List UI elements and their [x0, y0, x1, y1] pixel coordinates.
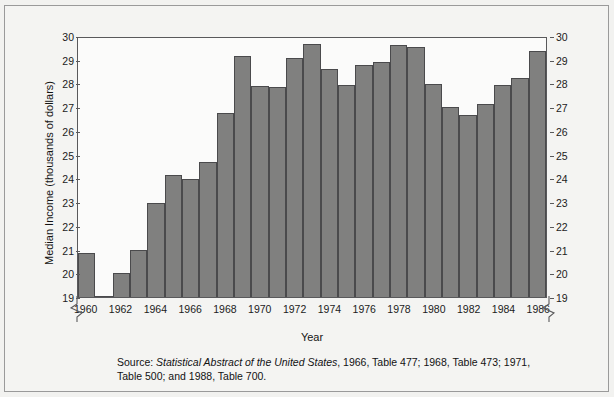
- bar-1967: [199, 162, 216, 297]
- y-tick-mark-30: [76, 37, 80, 38]
- y-tick-mark-27: [550, 108, 554, 109]
- y-tick-mark-21: [550, 251, 554, 252]
- x-tick-label-1964: 1964: [144, 303, 167, 315]
- y-tick-label-23: 23: [62, 197, 74, 209]
- y-axis-break-left-icon: [68, 296, 86, 322]
- y-tick-mark-28: [76, 84, 80, 85]
- y-tick-mark-29: [76, 61, 80, 62]
- x-tick-label-1978: 1978: [387, 303, 410, 315]
- x-tick-label-1982: 1982: [457, 303, 480, 315]
- bar-1970: [251, 86, 268, 297]
- y-tick-label-27: 27: [556, 102, 568, 114]
- y-tick-label-25: 25: [62, 150, 74, 162]
- y-tick-mark-20: [550, 274, 554, 275]
- y-tick-label-26: 26: [556, 126, 568, 138]
- y-tick-label-21: 21: [62, 245, 74, 257]
- y-tick-mark-28: [550, 84, 554, 85]
- bar-1985: [511, 78, 528, 297]
- y-tick-label-22: 22: [556, 221, 568, 233]
- y-tick-label-20: 20: [556, 268, 568, 280]
- bar-1969: [234, 56, 251, 297]
- y-tick-mark-24: [550, 179, 554, 180]
- bar-1968: [217, 113, 234, 297]
- y-tick-label-26: 26: [62, 126, 74, 138]
- y-tick-label-28: 28: [62, 78, 74, 90]
- y-tick-mark-26: [550, 132, 554, 133]
- source-caption: Source: Statistical Abstract of the Unit…: [117, 356, 537, 383]
- y-axis-break-right-icon: [540, 296, 558, 322]
- y-tick-label-21: 21: [556, 245, 568, 257]
- y-tick-mark-24: [76, 179, 80, 180]
- y-tick-label-25: 25: [556, 150, 568, 162]
- y-tick-mark-22: [550, 227, 554, 228]
- bar-1974: [321, 69, 338, 297]
- y-tick-label-29: 29: [62, 55, 74, 67]
- bar-1966: [182, 179, 199, 297]
- y-tick-label-24: 24: [556, 173, 568, 185]
- x-tick-label-1962: 1962: [109, 303, 132, 315]
- x-axis-title: Year: [77, 331, 547, 343]
- bar-series: [78, 38, 546, 297]
- bar-1962: [113, 273, 130, 297]
- y-tick-mark-27: [76, 108, 80, 109]
- bar-1977: [373, 62, 390, 297]
- bar-1980: [425, 84, 442, 297]
- x-tick-label-1968: 1968: [213, 303, 236, 315]
- y-tick-mark-20: [76, 274, 80, 275]
- x-tick-label-1980: 1980: [422, 303, 445, 315]
- bar-1971: [269, 87, 286, 297]
- bar-1973: [303, 44, 320, 297]
- bar-1983: [477, 104, 494, 297]
- y-axis-right: 192021222324252627282930: [552, 37, 580, 298]
- bar-1960: [78, 253, 95, 297]
- x-tick-label-1966: 1966: [178, 303, 201, 315]
- y-tick-label-30: 30: [62, 31, 74, 43]
- y-tick-mark-23: [76, 203, 80, 204]
- bar-1964: [147, 203, 164, 297]
- bar-1979: [407, 47, 424, 297]
- y-tick-label-30: 30: [556, 31, 568, 43]
- x-tick-label-1974: 1974: [318, 303, 341, 315]
- bar-1972: [286, 58, 303, 297]
- y-tick-label-20: 20: [62, 268, 74, 280]
- source-prefix: Source:: [117, 356, 156, 368]
- y-tick-label-28: 28: [556, 78, 568, 90]
- bar-1961: [95, 296, 112, 297]
- x-tick-label-1984: 1984: [492, 303, 515, 315]
- x-tick-label-1976: 1976: [353, 303, 376, 315]
- y-tick-label-23: 23: [556, 197, 568, 209]
- y-axis-title: Median Income (thousands of dollars): [43, 53, 55, 293]
- x-tick-label-1970: 1970: [248, 303, 271, 315]
- bar-1963: [130, 250, 147, 297]
- y-tick-mark-30: [550, 37, 554, 38]
- y-tick-label-24: 24: [62, 173, 74, 185]
- bar-1982: [459, 115, 476, 297]
- x-axis-ticks: 1960196219641966196819701972197419761978…: [77, 303, 547, 319]
- bar-1978: [390, 45, 407, 297]
- bar-1981: [442, 107, 459, 297]
- y-tick-mark-21: [76, 251, 80, 252]
- x-tick-label-1972: 1972: [283, 303, 306, 315]
- bar-1984: [494, 85, 511, 297]
- bar-1975: [338, 85, 355, 297]
- y-tick-label-29: 29: [556, 55, 568, 67]
- y-tick-mark-23: [550, 203, 554, 204]
- y-tick-mark-22: [76, 227, 80, 228]
- y-tick-mark-25: [76, 156, 80, 157]
- y-tick-mark-25: [550, 156, 554, 157]
- source-publication-title: Statistical Abstract of the United State…: [156, 356, 337, 368]
- bar-1965: [165, 175, 182, 297]
- y-tick-mark-29: [550, 61, 554, 62]
- y-tick-label-27: 27: [62, 102, 74, 114]
- plot-area: [77, 37, 547, 298]
- chart-frame: 192021222324252627282930 192021222324252…: [4, 5, 609, 392]
- bar-1976: [355, 65, 372, 297]
- y-tick-mark-26: [76, 132, 80, 133]
- bar-1986: [529, 51, 546, 297]
- y-tick-label-22: 22: [62, 221, 74, 233]
